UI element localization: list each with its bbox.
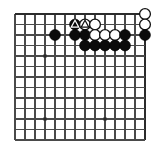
black-stone[interactable] (50, 30, 61, 41)
stone-black[interactable] (50, 30, 61, 41)
stone-black[interactable] (90, 40, 101, 51)
star-point (43, 117, 46, 120)
black-stone[interactable] (140, 30, 151, 41)
go-diagram (0, 0, 160, 154)
stone-white[interactable] (80, 19, 91, 30)
stone-black[interactable] (70, 30, 81, 41)
white-stone[interactable] (90, 30, 101, 41)
black-stone[interactable] (90, 40, 101, 51)
black-stone[interactable] (80, 40, 91, 51)
stone-black[interactable] (110, 40, 121, 51)
stone-black[interactable] (80, 40, 91, 51)
black-stone[interactable] (120, 30, 131, 41)
stone-black[interactable] (80, 30, 91, 41)
stone-white[interactable] (140, 9, 151, 20)
stone-black[interactable] (100, 40, 111, 51)
stone-white[interactable] (90, 30, 101, 41)
black-stone[interactable] (110, 40, 121, 51)
white-stone[interactable] (90, 19, 101, 30)
stone-white[interactable] (90, 19, 101, 30)
stone-black[interactable] (70, 19, 81, 30)
black-stone[interactable] (100, 40, 111, 51)
white-stone[interactable] (110, 30, 121, 41)
stone-white[interactable] (100, 30, 111, 41)
star-point (103, 117, 106, 120)
black-stone[interactable] (120, 40, 131, 51)
white-stone[interactable] (100, 30, 111, 41)
stone-black[interactable] (140, 30, 151, 41)
stone-black[interactable] (120, 40, 131, 51)
stone-white[interactable] (110, 30, 121, 41)
go-board[interactable] (0, 0, 160, 154)
black-stone[interactable] (80, 30, 91, 41)
stone-black[interactable] (120, 30, 131, 41)
white-stone[interactable] (140, 9, 151, 20)
black-stone[interactable] (70, 30, 81, 41)
star-point (43, 54, 46, 57)
stone-white[interactable] (140, 19, 151, 30)
white-stone[interactable] (140, 19, 151, 30)
